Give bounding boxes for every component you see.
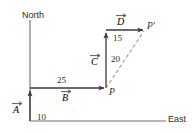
vector-b-label: B <box>62 92 68 103</box>
north-axis-label: North <box>22 11 44 20</box>
vector-a-overbar-icon <box>12 101 21 105</box>
vector-d-label: D <box>117 16 124 27</box>
vector-a-label: A <box>13 104 19 115</box>
east-axis-label: East <box>168 115 186 124</box>
vector-a-letter: A <box>13 104 19 115</box>
vector-b-magnitude: 25 <box>57 76 66 85</box>
point-p-label: P <box>109 88 115 98</box>
vector-b-overbar-icon <box>61 89 70 93</box>
vector-c-magnitude: 20 <box>111 55 120 64</box>
vector-c-overbar-icon <box>90 53 100 57</box>
vector-c-label: C <box>91 56 98 67</box>
vector-a-magnitude: 10 <box>37 113 46 122</box>
vector-c-letter: C <box>91 56 98 67</box>
vector-d-magnitude: 15 <box>113 34 122 43</box>
vector-d-overbar-icon <box>116 13 126 17</box>
vector-b-letter: B <box>62 92 68 103</box>
vector-diagram: North East 10 25 20 15 A B C <box>0 0 192 133</box>
point-p-prime-label: P' <box>147 22 155 32</box>
vector-d-letter: D <box>117 16 124 27</box>
